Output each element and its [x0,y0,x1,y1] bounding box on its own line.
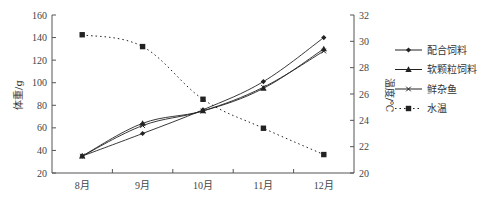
diamond-marker [261,79,266,84]
left-tick-label: 160 [32,10,47,21]
square-marker [80,32,85,37]
right-tick-label: 26 [359,89,369,100]
legend: 配合饲料软颗粒饲料鲜杂鱼水温 [395,44,477,115]
diamond-marker [140,131,145,136]
legend-label: 软颗粒饲料 [427,63,477,75]
series-3 [80,32,327,157]
left-tick-label: 100 [32,77,47,88]
right-tick-label: 20 [359,168,369,179]
series-1 [79,46,327,159]
legend-label: 鲜杂鱼 [427,83,457,95]
legend-item: 软颗粒饲料 [395,63,477,75]
left-tick-label: 60 [37,122,47,133]
right-tick-label: 22 [359,141,369,152]
left-tick-label: 20 [37,168,47,179]
square-marker [261,126,266,131]
series-line [82,51,324,156]
x-tick-label: 11月 [254,180,274,191]
right-axis-title: 温度/℃ [384,78,396,113]
right-tick-label: 32 [359,10,369,21]
x-tick-label: 8月 [75,180,90,191]
x-tick-label: 12月 [314,180,334,191]
right-tick-label: 24 [359,115,369,126]
left-axis-title: 体重/g [12,80,24,110]
left-tick-label: 40 [37,145,47,156]
left-tick-label: 80 [37,100,47,111]
square-marker [140,44,145,49]
plot-area [79,32,327,159]
legend-item: 配合饲料 [395,44,467,56]
legend-item: 水温 [395,103,447,114]
square-marker [321,152,326,157]
x-tick-label: 9月 [135,180,150,191]
left-tick-label: 120 [32,55,47,66]
line-chart: 20406080100120140160202224262830328月9月10… [0,0,492,207]
series-2 [80,49,326,159]
legend-item: 鲜杂鱼 [395,83,457,95]
left-tick-label: 140 [32,32,47,43]
right-tick-label: 30 [359,36,369,47]
square-marker [406,106,411,111]
x-tick-label: 10月 [193,180,213,191]
legend-label: 水温 [427,103,447,114]
diamond-marker [406,47,411,52]
square-marker [200,97,205,102]
right-tick-label: 28 [359,62,369,73]
legend-label: 配合饲料 [427,44,467,56]
